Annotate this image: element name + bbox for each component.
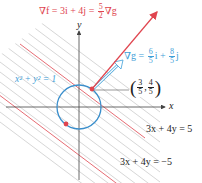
x-axis-label: x — [169, 101, 173, 111]
grad-g-suffix: j — [176, 50, 179, 61]
grad-f-prefix: ∇f = 3i + 4j = — [39, 5, 97, 16]
lagrange-multiplier-figure: ∇f = 3i + 4j = 52∇g ∇g = 65i + 85j (35,4… — [0, 0, 202, 183]
grad-f-label: ∇f = 3i + 4j = 52∇g — [39, 3, 117, 20]
grad-g-frac2-den: 5 — [170, 57, 174, 65]
point-x-den: 5 — [138, 88, 142, 96]
grad-g-frac1-den: 5 — [149, 57, 153, 65]
point-label: (35,45) — [130, 78, 161, 97]
line-lower-label: 3x + 4y = −5 — [120, 157, 172, 167]
y-axis-label: y — [77, 20, 81, 30]
line-upper-label: 3x + 4y = 5 — [146, 124, 192, 134]
grad-f-suffix: ∇g — [105, 5, 117, 16]
circle-equation-label: x² + y² = 1 — [15, 75, 56, 85]
grad-g-prefix: ∇g = — [124, 50, 147, 61]
point-y-den: 5 — [149, 88, 153, 96]
grad-f-frac-den: 2 — [99, 12, 103, 20]
grad-g-mid: i + — [155, 50, 168, 61]
grad-g-label: ∇g = 65i + 85j — [124, 48, 179, 65]
point-min — [64, 122, 69, 127]
point-max — [90, 87, 95, 92]
